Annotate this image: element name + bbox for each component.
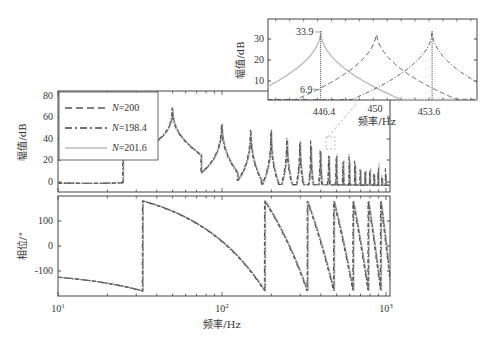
x-axis-label: 频率/Hz [203, 318, 240, 330]
legend-label-n198: N=198.4 [111, 122, 147, 133]
mag-tick-40: 40 [43, 133, 53, 144]
mag-tick-0: 0 [48, 176, 53, 187]
bode-plot-figure: 80 60 40 20 0 幅值/dB N=200 N=198.4 N=201.… [0, 0, 490, 340]
inset-xtick-446: 446.4 [313, 106, 336, 117]
annotation-peak-value: 33.9 [296, 26, 314, 37]
magnitude-y-axis-label: 幅值/dB [16, 123, 28, 160]
mag-tick-80: 80 [43, 90, 53, 101]
phase-tick-0: 0 [48, 240, 53, 251]
phase-axes-frame [58, 196, 390, 296]
phase-tick-minus100: -100 [35, 265, 53, 276]
legend: N=200 N=198.4 N=201.6 [59, 92, 158, 160]
inset-ytick-30: 30 [254, 33, 264, 44]
legend-label-n201: N=201.6 [111, 142, 147, 153]
inset-ytick-20: 20 [254, 54, 264, 65]
x-tick-10-2: 102 [215, 302, 229, 314]
x-tick-10-1: 101 [51, 302, 65, 314]
inset-ytick-10: 10 [254, 75, 264, 86]
phase-tick-100: 100 [38, 215, 53, 226]
x-tick-10-3: 103 [379, 302, 393, 314]
phase-panel: 100 0 -100 相位/° 101 102 103 频率/Hz [16, 196, 393, 330]
inset-x-axis-label: 频率/Hz [358, 115, 395, 127]
legend-label-n200: N=200 [111, 102, 139, 113]
inset-xtick-453: 453.6 [418, 106, 441, 117]
annotation-cross-value: 6.9 [300, 84, 313, 95]
mag-tick-20: 20 [43, 154, 53, 165]
inset-xtick-450: 450 [368, 103, 383, 114]
mag-tick-60: 60 [43, 111, 53, 122]
inset-y-axis-label: 幅值/dB [234, 41, 246, 78]
phase-y-axis-label: 相位/° [16, 232, 28, 260]
